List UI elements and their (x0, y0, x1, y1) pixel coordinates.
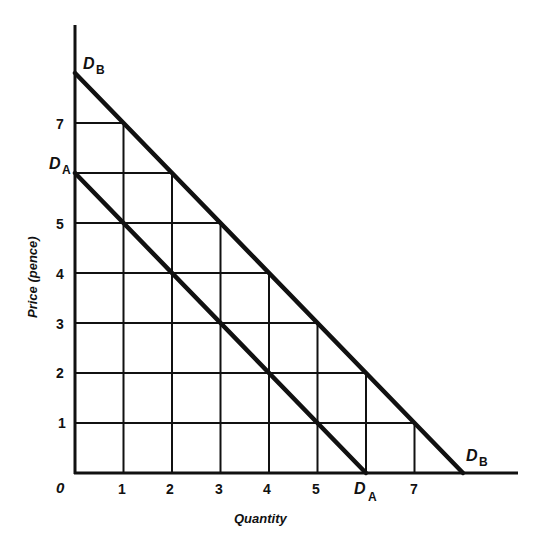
svg-text:B: B (479, 455, 488, 469)
demand-chart: 7 5 4 3 2 1 0 1 2 3 4 5 7 D B D A D A D … (0, 0, 543, 547)
y-tick-1: 1 (58, 415, 66, 431)
svg-text:A: A (368, 490, 377, 504)
y-tick-5: 5 (56, 216, 64, 232)
grid-lines (75, 123, 415, 473)
x-tick-3: 3 (215, 481, 223, 497)
da-bottom-label: D A (354, 480, 377, 504)
svg-text:A: A (62, 163, 71, 177)
y-tick-4: 4 (56, 266, 64, 282)
svg-text:D: D (49, 155, 61, 172)
x-axis-title: Quantity (234, 511, 287, 526)
y-axis-title: Price (pence) (25, 236, 40, 318)
svg-text:D: D (354, 480, 366, 497)
x-tick-4: 4 (263, 481, 271, 497)
x-tick-1: 1 (118, 481, 126, 497)
x-tick-7: 7 (410, 481, 418, 497)
svg-text:D: D (466, 447, 478, 464)
svg-text:D: D (83, 55, 95, 72)
x-tick-2: 2 (166, 481, 174, 497)
y-tick-3: 3 (56, 316, 64, 332)
y-tick-7: 7 (56, 116, 64, 132)
y-tick-2: 2 (56, 365, 64, 381)
db-top-label: D B (83, 55, 105, 77)
db-bottom-label: D B (466, 447, 488, 469)
da-left-label: D A (49, 155, 71, 177)
origin-label: 0 (56, 479, 65, 496)
svg-text:B: B (96, 63, 105, 77)
x-tick-5: 5 (312, 481, 320, 497)
